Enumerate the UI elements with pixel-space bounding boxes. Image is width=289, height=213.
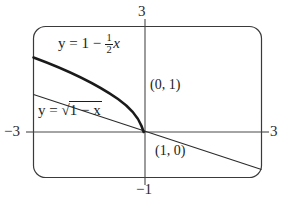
- axis-label-bottom: −1: [136, 182, 152, 197]
- axis-label-right: 3: [270, 124, 278, 139]
- fraction-one-half: 12: [105, 33, 112, 55]
- equation-line-prefix: y = 1 −: [58, 35, 105, 51]
- axis-label-left: −3: [4, 124, 20, 139]
- point-label-x-intercept: (1, 0): [155, 144, 185, 158]
- fraction-denominator: 2: [105, 44, 112, 56]
- fraction-numerator: 1: [105, 33, 112, 44]
- equation-label-curve: y = √1 − x: [38, 101, 102, 118]
- equation-line-variable: x: [113, 35, 120, 51]
- radical-group: √1 − x: [61, 101, 101, 118]
- equation-curve-prefix: y =: [38, 102, 61, 118]
- radicand: 1 − x: [69, 101, 102, 118]
- equation-label-line: y = 1 − 12x: [58, 33, 120, 55]
- point-label-y-intercept: (0, 1): [150, 78, 180, 92]
- axis-label-top: 3: [138, 4, 146, 19]
